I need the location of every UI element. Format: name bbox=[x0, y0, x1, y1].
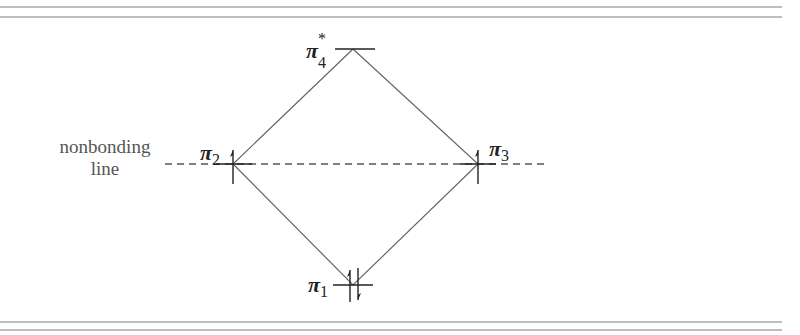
diamond-connector bbox=[233, 49, 478, 285]
pi2-subscript: 2 bbox=[212, 151, 220, 168]
pi4-subscript: 4 bbox=[318, 54, 326, 71]
nonbonding-label-line2: line bbox=[50, 158, 160, 180]
pi3-symbol: π bbox=[489, 136, 501, 161]
pi3-label: π3 bbox=[489, 136, 509, 165]
pi1-symbol: π bbox=[308, 272, 320, 297]
pi1-subscript: 1 bbox=[320, 283, 328, 300]
pi2-label: π2 bbox=[200, 140, 220, 169]
nonbonding-line-label: nonbonding line bbox=[50, 136, 160, 180]
pi2-symbol: π bbox=[200, 140, 212, 165]
nonbonding-label-line1: nonbonding bbox=[50, 136, 160, 158]
pi3-subscript: 3 bbox=[501, 147, 509, 164]
pi1-label: π1 bbox=[308, 272, 328, 301]
pi4-symbol: π bbox=[306, 38, 318, 63]
pi4-superscript: * bbox=[318, 30, 326, 47]
pi4-label: π4* bbox=[306, 36, 334, 68]
